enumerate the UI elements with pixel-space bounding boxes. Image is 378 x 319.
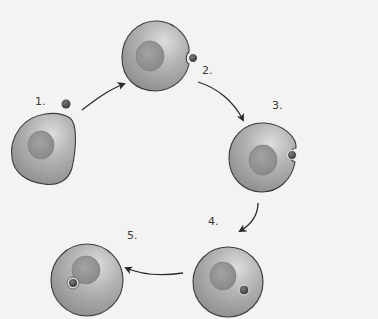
diagram-canvas xyxy=(0,0,378,319)
arrow-1-to-2 xyxy=(82,84,124,110)
particle-4 xyxy=(239,285,249,295)
cell-1-nucleus xyxy=(28,131,54,159)
arrow-4-to-5 xyxy=(126,268,183,275)
particle-5 xyxy=(69,279,77,287)
cell-step-1 xyxy=(11,100,75,185)
particle-1 xyxy=(62,100,71,109)
step-label-2: 2. xyxy=(202,64,213,77)
cell-step-2 xyxy=(122,21,198,91)
arrow-3-to-4 xyxy=(240,203,258,231)
particle-2 xyxy=(189,54,198,63)
cell-3-nucleus xyxy=(249,145,277,175)
cell-step-4 xyxy=(193,247,263,317)
step-label-3: 3. xyxy=(272,99,283,112)
step-label-5: 5. xyxy=(127,229,138,242)
cell-2-nucleus xyxy=(136,41,164,71)
arrow-2-to-3 xyxy=(198,82,243,120)
cell-4-nucleus xyxy=(210,262,236,290)
particle-3 xyxy=(288,151,297,160)
step-label-1: 1. xyxy=(35,95,46,108)
endocytosis-diagram: 1. 2. 3. 4. 5. xyxy=(0,0,378,319)
step-label-4: 4. xyxy=(208,215,219,228)
cell-step-5 xyxy=(51,244,123,316)
cell-step-3 xyxy=(229,123,297,192)
